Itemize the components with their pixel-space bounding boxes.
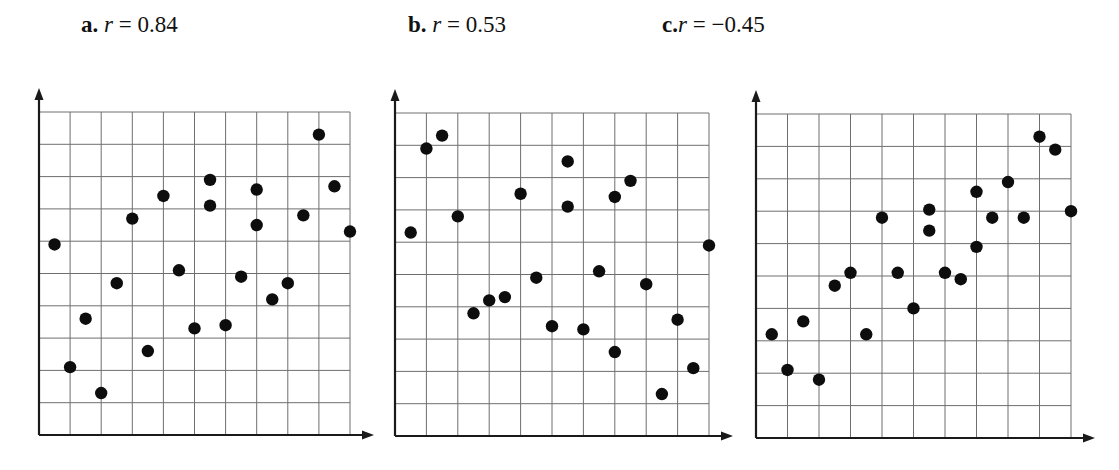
data-point bbox=[48, 238, 60, 250]
data-point bbox=[514, 188, 526, 200]
data-point bbox=[970, 241, 982, 253]
data-point bbox=[499, 291, 511, 303]
data-point bbox=[624, 175, 636, 187]
data-point bbox=[844, 267, 856, 279]
data-point bbox=[530, 272, 542, 284]
data-point bbox=[781, 364, 793, 376]
y-axis-arrow-icon bbox=[752, 90, 761, 102]
data-point bbox=[562, 155, 574, 167]
data-points bbox=[48, 128, 356, 399]
data-point bbox=[126, 212, 138, 224]
data-point bbox=[923, 224, 935, 236]
grid bbox=[395, 113, 709, 436]
data-point bbox=[1018, 211, 1030, 223]
grid bbox=[39, 112, 350, 435]
data-point bbox=[235, 271, 247, 283]
data-point bbox=[64, 361, 76, 373]
data-point bbox=[1002, 176, 1014, 188]
data-point bbox=[562, 200, 574, 212]
scatter-plots bbox=[0, 0, 1119, 470]
data-point bbox=[266, 293, 278, 305]
data-point bbox=[797, 315, 809, 327]
data-point bbox=[157, 190, 169, 202]
data-point bbox=[420, 142, 432, 154]
data-point bbox=[282, 277, 294, 289]
data-point bbox=[436, 129, 448, 141]
data-point bbox=[892, 267, 904, 279]
axes bbox=[752, 90, 1096, 443]
data-point bbox=[251, 183, 263, 195]
data-point bbox=[467, 307, 479, 319]
data-point bbox=[313, 128, 325, 140]
data-point bbox=[452, 210, 464, 222]
grid bbox=[756, 114, 1071, 438]
data-point bbox=[204, 199, 216, 211]
data-point bbox=[593, 265, 605, 277]
data-point bbox=[405, 226, 417, 238]
data-point bbox=[813, 373, 825, 385]
data-point bbox=[188, 322, 200, 334]
data-point bbox=[328, 180, 340, 192]
data-point bbox=[173, 264, 185, 276]
data-point bbox=[609, 346, 621, 358]
data-point bbox=[671, 314, 683, 326]
data-point bbox=[609, 191, 621, 203]
data-point bbox=[876, 211, 888, 223]
data-point bbox=[907, 302, 919, 314]
scatter-plot-c bbox=[752, 90, 1096, 443]
data-point bbox=[656, 388, 668, 400]
scatter-plot-a bbox=[35, 88, 375, 440]
data-point bbox=[860, 328, 872, 340]
data-point bbox=[1033, 130, 1045, 142]
data-point bbox=[577, 323, 589, 335]
axes bbox=[35, 88, 375, 440]
data-point bbox=[251, 219, 263, 231]
data-point bbox=[204, 174, 216, 186]
data-point bbox=[483, 294, 495, 306]
data-point bbox=[939, 267, 951, 279]
x-axis-arrow-icon bbox=[721, 432, 733, 441]
data-point bbox=[344, 225, 356, 237]
data-point bbox=[703, 239, 715, 251]
y-axis-arrow-icon bbox=[391, 89, 400, 101]
data-point bbox=[829, 280, 841, 292]
data-point bbox=[687, 362, 699, 374]
data-point bbox=[640, 278, 652, 290]
data-point bbox=[1065, 205, 1077, 217]
x-axis-arrow-icon bbox=[1083, 434, 1095, 443]
data-point bbox=[95, 387, 107, 399]
data-points bbox=[766, 130, 1078, 385]
data-point bbox=[297, 209, 309, 221]
scatter-plot-b bbox=[391, 89, 734, 441]
data-point bbox=[79, 313, 91, 325]
data-point bbox=[1049, 143, 1061, 155]
y-axis-arrow-icon bbox=[35, 88, 44, 100]
data-point bbox=[546, 320, 558, 332]
data-point bbox=[219, 319, 231, 331]
data-point bbox=[970, 186, 982, 198]
data-point bbox=[766, 328, 778, 340]
data-point bbox=[955, 273, 967, 285]
data-points bbox=[405, 129, 716, 400]
data-point bbox=[111, 277, 123, 289]
data-point bbox=[142, 345, 154, 357]
x-axis-arrow-icon bbox=[362, 431, 374, 440]
data-point bbox=[986, 211, 998, 223]
data-point bbox=[923, 203, 935, 215]
